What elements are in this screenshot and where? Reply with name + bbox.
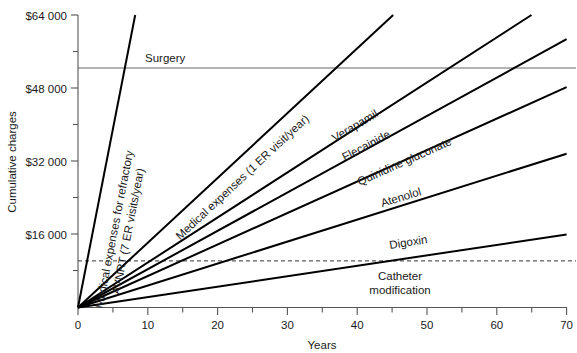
chart-figure: $64 000 $48 000 $32 000 $16 000 Cumulati… [0, 0, 577, 353]
y-tick-label-16000: $16 000 [25, 229, 67, 241]
series-label-surgery: Surgery [145, 52, 186, 64]
x-tick-label-0: 0 [75, 319, 81, 331]
x-axis-title: Years [308, 339, 337, 351]
x-tick-label-70: 70 [560, 319, 573, 331]
series-label-catheter-line2: modification [369, 284, 430, 296]
y-axis-title: Cumulative charges [6, 111, 18, 213]
x-tick-label-60: 60 [490, 319, 503, 331]
x-tick-label-50: 50 [421, 319, 434, 331]
cumulative-charges-chart: $64 000 $48 000 $32 000 $16 000 Cumulati… [0, 0, 577, 353]
y-tick-label-48000: $48 000 [25, 83, 67, 95]
series-label-catheter-line1: Catheter [378, 270, 422, 282]
y-tick-label-32000: $32 000 [25, 156, 67, 168]
x-tick-label-20: 20 [211, 319, 224, 331]
x-tick-label-40: 40 [351, 319, 364, 331]
y-tick-label-64000: $64 000 [25, 10, 67, 22]
x-tick-label-10: 10 [141, 319, 154, 331]
x-tick-label-30: 30 [281, 319, 294, 331]
